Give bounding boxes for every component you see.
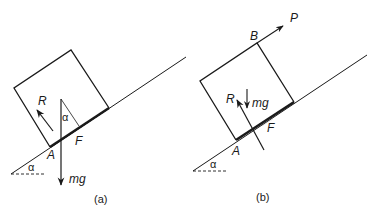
force-diagram: R α F A α mg (a) P B R mg F A α (b) (0, 0, 374, 211)
label-A: A (231, 144, 240, 158)
caption-a: (a) (94, 193, 107, 205)
label-B: B (250, 29, 258, 43)
label-F: F (75, 134, 83, 148)
label-mg: mg (69, 172, 86, 186)
label-alpha-incline: α (210, 158, 217, 170)
label-R: R (38, 94, 47, 108)
panel-b: P B R mg F A α (b) (193, 11, 367, 203)
label-A: A (46, 148, 55, 162)
label-F: F (267, 121, 275, 135)
label-R: R (226, 92, 235, 106)
reaction-arrow (37, 110, 53, 131)
caption-b: (b) (256, 191, 269, 203)
label-alpha-incline: α (28, 161, 35, 173)
label-mg: mg (252, 96, 269, 110)
panel-a: R α F A α mg (a) (11, 50, 186, 205)
friction-arrow (64, 131, 75, 138)
applied-force-arrow (257, 26, 283, 43)
label-alpha-force: α (62, 111, 69, 123)
label-P: P (290, 11, 298, 25)
